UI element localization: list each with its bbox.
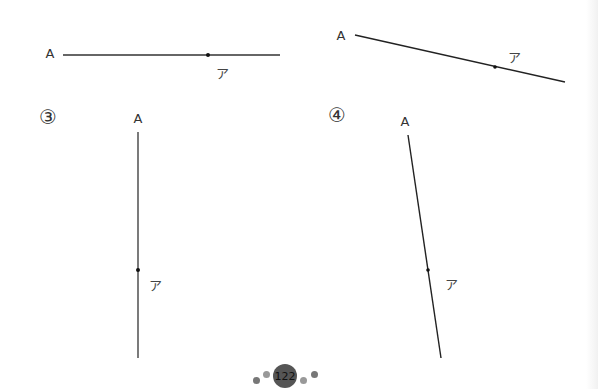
footer-dot-icon <box>300 377 307 384</box>
figure-4-number: ④ <box>328 105 346 125</box>
segment-2 <box>355 35 565 82</box>
figure-3 <box>136 132 140 358</box>
segment-4 <box>408 135 441 358</box>
page-number-badge: 122 <box>273 364 297 388</box>
footer-dot-icon <box>263 371 270 378</box>
figure-4-point-label: ア <box>445 278 458 291</box>
point-a-4 <box>426 268 430 272</box>
point-a-1 <box>206 53 210 57</box>
figure-1 <box>63 53 280 57</box>
figure-1-start-label: A <box>46 47 55 60</box>
figure-4-start-label: A <box>401 115 410 128</box>
figure-3-start-label: A <box>134 112 143 125</box>
point-a-3 <box>136 268 140 272</box>
point-a-2 <box>493 65 497 69</box>
figure-2-point-label: ア <box>508 51 521 64</box>
figure-4 <box>408 135 441 358</box>
footer-dot-icon <box>253 377 260 384</box>
figure-3-point-label: ア <box>149 279 162 292</box>
figure-2-start-label: A <box>337 29 346 42</box>
figure-1-point-label: ア <box>216 67 229 80</box>
figure-3-number: ③ <box>39 107 57 127</box>
footer-dot-icon <box>311 371 318 378</box>
figure-2 <box>355 35 565 82</box>
